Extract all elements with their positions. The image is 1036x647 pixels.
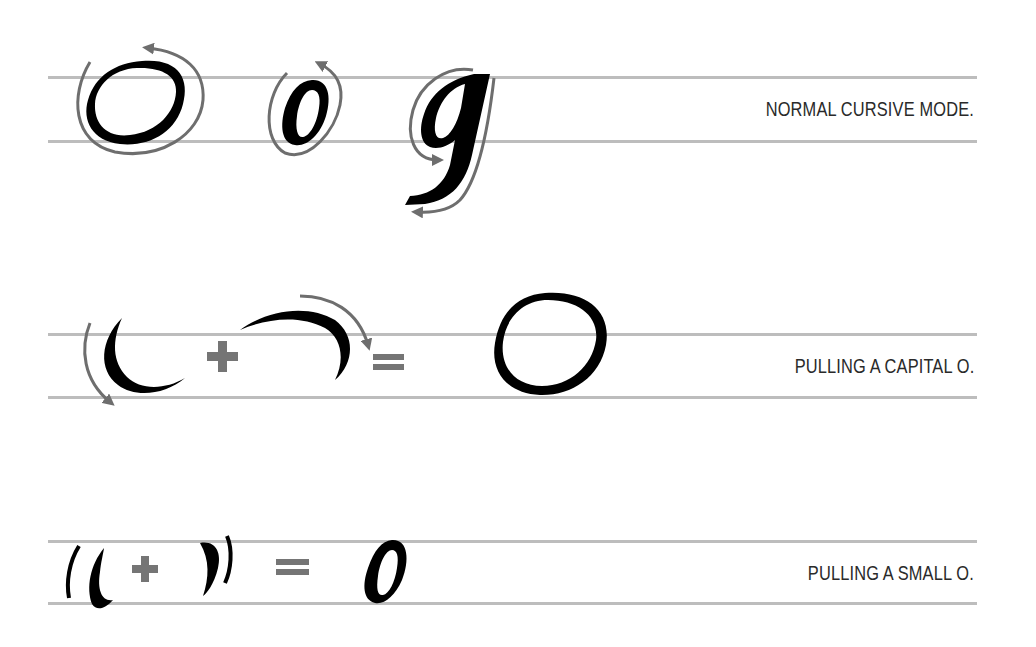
- small-o-glyph: [282, 80, 328, 145]
- small-o-right-stroke: [200, 543, 219, 596]
- small-o-left-thin-arrow: [68, 546, 79, 598]
- capital-o-result: [494, 293, 607, 395]
- row-label-small-o: PULLING A SMALL O.: [808, 561, 974, 585]
- small-o-right-thin-stroke: [225, 536, 231, 583]
- row-label-normal-cursive: NORMAL CURSIVE MODE.: [766, 97, 974, 121]
- equals-operator-2: [276, 559, 309, 575]
- plus-operator-1: [207, 341, 238, 372]
- equals-operator-1: [373, 354, 404, 370]
- row-label-capital-o: PULLING A CAPITAL O.: [794, 354, 974, 378]
- capital-o-right-stroke: [240, 311, 350, 380]
- small-o-result: [364, 540, 406, 603]
- plus-operator-2: [132, 556, 158, 582]
- small-o-left-stroke: [89, 548, 113, 608]
- capital-o-left-stroke: [104, 318, 185, 393]
- capital-o-glyph: [86, 61, 185, 145]
- small-g-glyph: [405, 74, 490, 205]
